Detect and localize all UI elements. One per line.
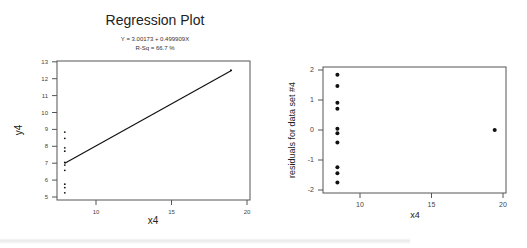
x-axis: 101520 <box>356 193 507 208</box>
y-tick-label: 11 <box>42 93 49 99</box>
data-point <box>335 141 339 145</box>
y-tick-label: 5 <box>45 194 49 200</box>
data-point <box>64 169 66 171</box>
x-tick-label: 10 <box>356 201 364 208</box>
residual-plot: -2-1012 101520 x4 residuals for data set… <box>287 66 507 220</box>
regression-line <box>65 70 232 163</box>
y-tick-label: 7 <box>45 160 49 166</box>
data-point <box>64 147 66 149</box>
y-axis-label: y4 <box>13 124 24 135</box>
data-point <box>64 183 66 185</box>
y-tick-label: 2 <box>310 66 314 73</box>
data-point <box>64 137 66 139</box>
plot-frame <box>323 67 506 193</box>
data-point <box>64 164 66 166</box>
x-axis-label: x4 <box>148 215 159 226</box>
y-tick-label: 0 <box>310 126 314 133</box>
y-tick-label: -2 <box>308 186 314 193</box>
data-point <box>64 131 66 133</box>
data-point <box>335 131 339 135</box>
data-point <box>335 171 339 175</box>
data-point <box>335 73 339 77</box>
y-tick-label: 9 <box>45 126 49 132</box>
x-tick-label: 15 <box>168 209 175 215</box>
data-point <box>335 127 339 131</box>
data-point <box>493 128 497 132</box>
x-axis: 101520 <box>93 200 251 215</box>
data-point <box>335 107 339 111</box>
y-tick-label: 13 <box>41 59 48 65</box>
y-tick-label: 6 <box>45 177 49 183</box>
data-point <box>335 84 339 88</box>
y-axis: -2-1012 <box>308 66 323 193</box>
y-tick-label: -1 <box>308 156 314 163</box>
charts-canvas: 5678910111213 101520 x4 y4 -2-1012 10152… <box>0 0 527 248</box>
x-tick-label: 20 <box>499 201 507 208</box>
data-points <box>64 69 232 193</box>
x-tick-label: 20 <box>244 209 251 215</box>
data-point <box>335 101 339 105</box>
data-point <box>64 187 66 189</box>
plot-frame <box>57 61 250 200</box>
y-tick-label: 10 <box>41 110 48 116</box>
x-tick-label: 10 <box>93 209 100 215</box>
divider <box>0 238 410 244</box>
y-axis: 5678910111213 <box>41 59 57 200</box>
x-axis-label: x4 <box>410 210 420 220</box>
data-point <box>335 165 339 169</box>
y-axis-label: residuals for data set #4 <box>287 82 297 178</box>
y-tick-label: 12 <box>41 76 48 82</box>
y-tick-label: 8 <box>45 143 49 149</box>
data-point <box>335 181 339 185</box>
regression-plot: 5678910111213 101520 x4 y4 <box>13 59 251 226</box>
x-tick-label: 15 <box>428 201 436 208</box>
data-point <box>64 192 66 194</box>
data-points <box>335 73 496 185</box>
y-tick-label: 1 <box>310 96 314 103</box>
data-point <box>64 150 66 152</box>
